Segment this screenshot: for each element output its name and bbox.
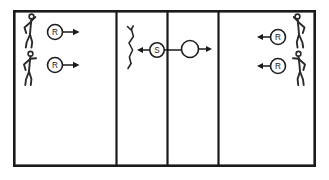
- receiver-marker-label: R: [275, 62, 281, 71]
- receiver-marker-label: R: [52, 28, 58, 37]
- player-arm-left-forward: [293, 58, 299, 59]
- player-head-icon: [28, 51, 33, 56]
- receiver-marker-label: R: [275, 33, 281, 42]
- player-arm-right-forward: [30, 58, 36, 59]
- court-diagram-canvas: R R S: [0, 0, 329, 180]
- setter-marker-label: S: [154, 46, 160, 55]
- receiver-marker-label: R: [52, 61, 58, 70]
- court-diagram: R R S: [0, 0, 329, 180]
- ball-marker-circle: [182, 41, 199, 58]
- player-head-icon: [296, 51, 301, 56]
